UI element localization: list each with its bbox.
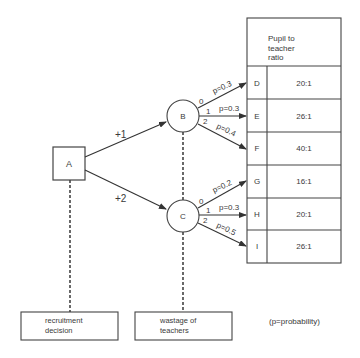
branch-b-2-prob: p=0.4 (215, 122, 238, 139)
decision-tree-diagram: A +1 +2 B C 0 1 2 p=0.3 p=0.3 p=0.4 0 1 … (0, 0, 360, 358)
table-row-ratio: 20:1 (296, 210, 312, 219)
edge-a-c-label: +2 (115, 193, 127, 204)
ratio-table (247, 18, 341, 263)
table-header-line-2: teacher (268, 44, 295, 53)
branch-b-0-prob: p=0.3 (211, 79, 234, 96)
table-row-id: G (254, 177, 260, 186)
branch-b-1-num: 1 (206, 107, 211, 116)
recruitment-decision-line-1: recruitment (45, 316, 83, 325)
table-row-id: H (254, 210, 260, 219)
branch-b-0-num: 0 (199, 97, 204, 106)
edge-a-b-label: +1 (115, 129, 127, 140)
recruitment-decision-line-2: decision (45, 326, 73, 335)
table-row-ratio: 16:1 (296, 177, 312, 186)
table-row-id: D (254, 79, 260, 88)
branch-c-2-num: 2 (203, 216, 208, 225)
decision-node-a-label: A (66, 159, 72, 169)
branch-c-1-prob: p=0.3 (219, 203, 240, 212)
branch-c-0-prob: p=0.2 (211, 178, 234, 195)
chance-node-c-label: C (180, 212, 186, 221)
branch-c-0-num: 0 (199, 197, 204, 206)
wastage-of-teachers-line-1: wastage of (159, 316, 197, 325)
branch-b-2-num: 2 (203, 117, 208, 126)
table-row-ratio: 26:1 (296, 112, 312, 121)
table-header-line-3: ratio (268, 53, 284, 62)
table-header-line-1: Pupil to (268, 34, 295, 43)
chance-node-b-label: B (180, 112, 185, 121)
wastage-of-teachers-line-2: teachers (160, 326, 189, 335)
branch-b-1-prob: p=0.3 (219, 104, 240, 113)
table-row-id: I (256, 242, 258, 251)
table-row-id: F (255, 144, 260, 153)
table-row-ratio: 26:1 (296, 242, 312, 251)
table-row-ratio: 40:1 (296, 144, 312, 153)
table-row-ratio: 20:1 (296, 79, 312, 88)
probability-note: (p=probability) (269, 317, 320, 326)
branch-c-1-num: 1 (206, 206, 211, 215)
branch-c-2-prob: p=0.5 (215, 221, 238, 238)
table-row-id: E (254, 112, 259, 121)
